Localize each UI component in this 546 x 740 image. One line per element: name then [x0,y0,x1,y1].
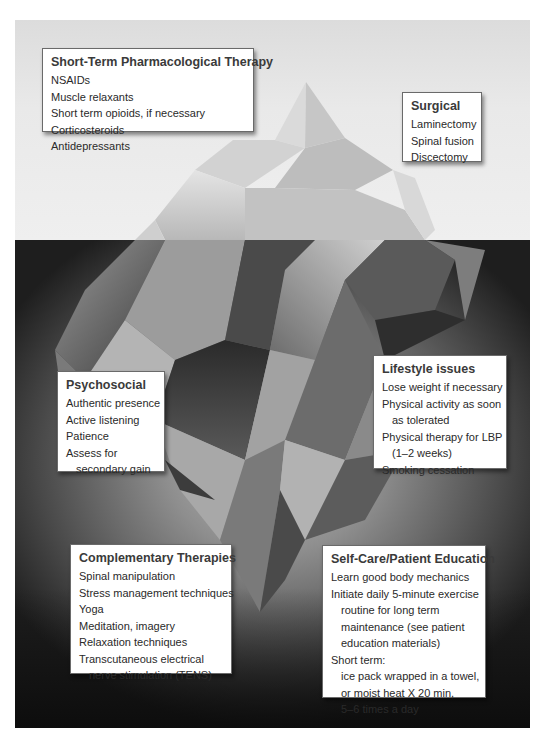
list-item: Yoga [79,601,223,618]
box-title: Lifestyle issues [382,361,498,378]
box-title: Short-Term Pharmacological Therapy [51,54,245,71]
list-item: Physical activity as soon [382,396,498,413]
list-item: Short term opioids, if necessary [51,105,245,122]
list-item: Meditation, imagery [79,618,223,635]
list-item: routine for long term [331,602,477,619]
self-care-patient-education-box: Self-Care/Patient Education Learn good b… [322,545,486,698]
list-item: 5–6 times a day [331,701,477,718]
list-item: Discectomy [411,149,473,166]
box-title: Surgical [411,98,473,115]
list-item: Stress management techniques [79,585,223,602]
list-item: Laminectomy [411,116,473,133]
list-item: education materials) [331,635,477,652]
pharmacological-therapy-box: Short-Term Pharmacological Therapy NSAID… [42,48,254,132]
list-item: Corticosteroids [51,122,245,139]
list-item: as tolerated [382,412,498,429]
list-item: maintenance (see patient [331,619,477,636]
box-title: Self-Care/Patient Education [331,551,477,568]
complementary-therapies-box: Complementary Therapies Spinal manipulat… [70,544,232,674]
list-item: Active listening [66,412,156,429]
list-item: Muscle relaxants [51,89,245,106]
iceberg-diagram-frame: Short-Term Pharmacological Therapy NSAID… [15,20,530,728]
list-item: Assess for [66,445,156,462]
list-item: (1–2 weeks) [382,445,498,462]
list-item: Spinal fusion [411,133,473,150]
list-item: or moist heat X 20 min, [331,685,477,702]
list-item: secondary gain [66,461,156,478]
surgical-box: Surgical Laminectomy Spinal fusion Disce… [402,92,482,162]
box-title: Complementary Therapies [79,550,223,567]
list-item: Lose weight if necessary [382,379,498,396]
list-item: Authentic presence [66,395,156,412]
list-item: Relaxation techniques [79,634,223,651]
box-title: Psychosocial [66,377,156,394]
list-item: nerve stimulation (TENS) [79,667,223,684]
list-item: Learn good body mechanics [331,569,477,586]
list-item: Short term: [331,652,477,669]
list-item: Smoking cessation [382,462,498,479]
list-item: Antidepressants [51,138,245,155]
list-item: Transcutaneous electrical [79,651,223,668]
list-item: Spinal manipulation [79,568,223,585]
list-item: Patience [66,428,156,445]
list-item: NSAIDs [51,72,245,89]
psychosocial-box: Psychosocial Authentic presence Active l… [57,371,165,472]
list-item: Initiate daily 5-minute exercise [331,586,477,603]
list-item: ice pack wrapped in a towel, [331,668,477,685]
list-item: Physical therapy for LBP [382,429,498,446]
lifestyle-issues-box: Lifestyle issues Lose weight if necessar… [373,355,507,469]
